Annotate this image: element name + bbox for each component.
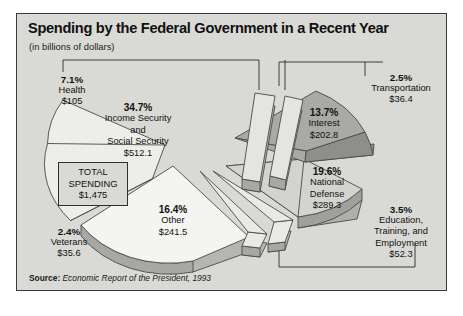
education-value: $52.3 [355, 249, 447, 260]
veterans-value: $35.6 [29, 248, 109, 259]
income-name-1: Income Security [79, 113, 197, 124]
interest-percent: 13.7% [291, 107, 357, 118]
income-name-2: and [79, 125, 197, 136]
other-value: $241.5 [137, 227, 209, 238]
education-percent: 3.5% [355, 204, 447, 215]
interest-name: Interest [291, 118, 357, 129]
source-prefix: Source: [29, 273, 60, 283]
chart-figure: Spending by the Federal Government in a … [16, 13, 447, 291]
defense-percent: 19.6% [291, 166, 363, 177]
health-percent: 7.1% [35, 74, 109, 85]
total-label-line1: TOTAL [59, 166, 127, 178]
education-name-3: Employment [355, 238, 447, 249]
interest-value: $202.8 [291, 130, 357, 141]
slice-label-other: 16.4% Other $241.5 [137, 204, 209, 238]
source-text: Economic Report of the President, 1993 [63, 273, 212, 283]
defense-name-2: Defense [291, 189, 363, 200]
education-name-2: Training, and [355, 226, 447, 237]
total-label-line2: SPENDING [59, 178, 127, 190]
transportation-value: $36.4 [357, 94, 445, 105]
transportation-name: Transportation [357, 83, 445, 94]
other-name: Other [137, 215, 209, 226]
slice-label-interest: 13.7% Interest $202.8 [291, 107, 357, 141]
callout-education: 3.5% Education, Training, and Employment… [355, 204, 447, 260]
callout-veterans: 2.4% Veterans $35.6 [29, 226, 109, 260]
defense-value: $289.3 [291, 200, 363, 211]
slice-label-national-defense: 19.6% National Defense $289.3 [291, 166, 363, 212]
health-name: Health [35, 85, 109, 96]
veterans-name: Veterans [29, 237, 109, 248]
callout-transportation: 2.5% Transportation $36.4 [357, 72, 445, 106]
other-percent: 16.4% [137, 204, 209, 215]
total-spending-box: TOTAL SPENDING $1,475 [58, 162, 128, 206]
total-value: $1,475 [59, 189, 127, 201]
veterans-percent: 2.4% [29, 226, 109, 237]
income-percent: 34.7% [79, 102, 197, 113]
income-value: $512.1 [79, 148, 197, 159]
transportation-percent: 2.5% [357, 72, 445, 83]
income-name-3: Social Security [79, 136, 197, 147]
defense-name-1: National [291, 177, 363, 188]
slice-label-income-security: 34.7% Income Security and Social Securit… [79, 102, 197, 159]
source-note: Source: Economic Report of the President… [29, 273, 211, 283]
education-name-1: Education, [355, 215, 447, 226]
